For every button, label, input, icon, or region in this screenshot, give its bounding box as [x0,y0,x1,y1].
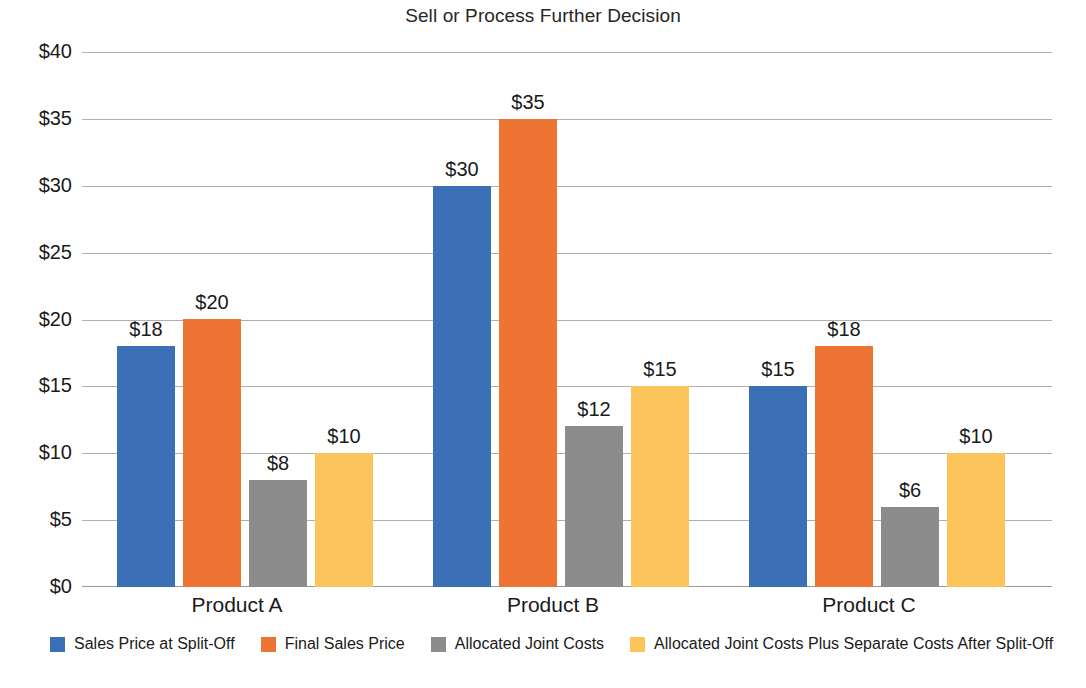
bar-product-b-allocated-joint-costs-plus-separate[interactable] [631,386,689,587]
y-tick-25: $25 [6,241,72,264]
bar-label-product-a-1: $18 [117,318,175,341]
bar-label-product-b-3: $12 [565,398,623,421]
chart-title: Sell or Process Further Decision [0,5,1086,27]
y-tick-15: $15 [6,374,72,397]
bar-label-product-b-2: $35 [499,91,557,114]
y-tick-40: $40 [6,40,72,63]
bar-label-product-a-3: $8 [249,452,307,475]
bar-label-product-b-4: $15 [631,358,689,381]
bar-product-b-final-sales-price[interactable] [499,119,557,587]
bar-chart: Sell or Process Further Decision $40 $35… [0,0,1086,688]
bar-product-b-allocated-joint-costs[interactable] [565,426,623,587]
bar-product-b-sales-price-at-split-off[interactable] [433,186,491,587]
bar-product-a-sales-price-at-split-off[interactable] [117,346,175,587]
plot-area: $18 $20 $8 $10 $30 $35 $12 $15 $15 $18 $… [82,52,1052,587]
legend-swatch-blue-icon [50,637,65,652]
y-tick-30: $30 [6,174,72,197]
legend-item-allocated-joint-costs[interactable]: Allocated Joint Costs [431,636,604,652]
category-label-product-a: Product A [117,593,357,617]
legend-label-allocated-joint-costs-plus-separate: Allocated Joint Costs Plus Separate Cost… [654,636,1053,652]
legend-swatch-orange-icon [261,637,276,652]
legend-label-sales-price-at-split-off: Sales Price at Split-Off [74,636,235,652]
bar-product-c-allocated-joint-costs[interactable] [881,507,939,587]
bar-label-product-b-1: $30 [433,158,491,181]
bar-label-product-c-4: $10 [947,425,1005,448]
bar-label-product-c-2: $18 [815,318,873,341]
gridline-25 [82,253,1052,254]
y-tick-10: $10 [6,441,72,464]
legend-swatch-yellow-icon [630,637,645,652]
y-tick-20: $20 [6,308,72,331]
bar-product-c-final-sales-price[interactable] [815,346,873,587]
legend-label-allocated-joint-costs: Allocated Joint Costs [455,636,604,652]
legend-swatch-gray-icon [431,637,446,652]
legend-label-final-sales-price: Final Sales Price [285,636,405,652]
legend-item-sales-price-at-split-off[interactable]: Sales Price at Split-Off [50,636,235,652]
bar-label-product-a-4: $10 [315,425,373,448]
y-tick-0: $0 [6,575,72,598]
y-tick-5: $5 [6,508,72,531]
legend: Sales Price at Split-Off Final Sales Pri… [50,632,1079,656]
bar-label-product-c-3: $6 [881,479,939,502]
y-tick-35: $35 [6,107,72,130]
gridline-40 [82,52,1052,53]
bar-label-product-a-2: $20 [183,291,241,314]
gridline-30 [82,186,1052,187]
bar-product-c-allocated-joint-costs-plus-separate[interactable] [947,453,1005,587]
bar-product-a-allocated-joint-costs[interactable] [249,480,307,587]
legend-item-allocated-joint-costs-plus-separate[interactable]: Allocated Joint Costs Plus Separate Cost… [630,636,1053,652]
category-label-product-c: Product C [749,593,989,617]
legend-item-final-sales-price[interactable]: Final Sales Price [261,636,405,652]
category-label-product-b: Product B [433,593,673,617]
gridline-35 [82,119,1052,120]
bar-label-product-c-1: $15 [749,358,807,381]
bar-product-c-sales-price-at-split-off[interactable] [749,386,807,587]
y-axis: $40 $35 $30 $25 $20 $15 $10 $5 $0 [0,52,72,587]
bar-product-a-allocated-joint-costs-plus-separate[interactable] [315,453,373,587]
bar-product-a-final-sales-price[interactable] [183,319,241,587]
